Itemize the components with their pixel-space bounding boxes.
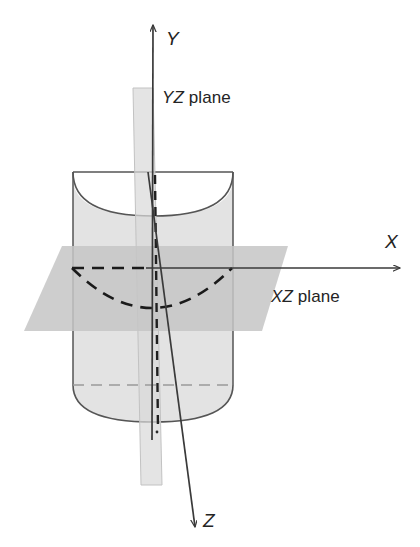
yz-plane-label-italic: YZ [162, 88, 184, 107]
cylinder-plane-diagram [0, 0, 420, 547]
z-axis-label: Z [203, 511, 215, 530]
yz-plane-label-rest: plane [184, 88, 231, 107]
y-axis [152, 25, 153, 440]
y-axis-label: Y [166, 29, 179, 48]
diagram-canvas: Y X Z YZ plane XZ plane [0, 0, 420, 547]
yz-plane-label: YZ plane [162, 89, 231, 106]
xz-plane-label: XZ plane [271, 288, 340, 305]
xz-plane-label-rest: plane [293, 287, 340, 306]
xz-plane-label-italic: XZ [271, 287, 293, 306]
x-axis-label: X [385, 232, 398, 251]
axis-end-dot [156, 431, 159, 434]
